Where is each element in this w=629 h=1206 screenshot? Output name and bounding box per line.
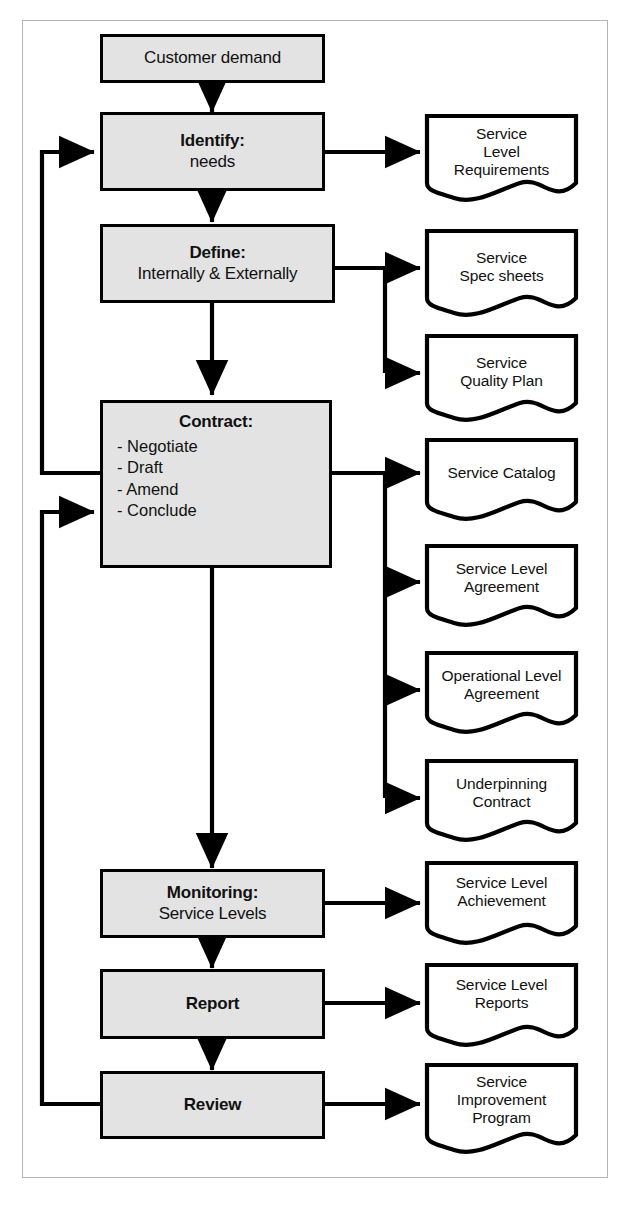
document-label: Service Improvement Program [424,1073,579,1127]
document-underpinning-contract[interactable]: Underpinning Contract [424,758,579,841]
document-label: Operational Level Agreement [424,667,579,703]
document-service-level-agreement[interactable]: Service Level Agreement [424,543,579,626]
doc-line: Quality Plan [430,372,573,390]
document-operational-level-agreement[interactable]: Operational Level Agreement [424,650,579,733]
doc-line: Program [430,1109,573,1127]
process-title-identify: Identify: [180,131,244,151]
contract-bullet-amend: - Amend [117,479,198,500]
doc-line: Service [430,125,573,143]
doc-line: Agreement [430,578,573,596]
document-label: Service Level Requirements [424,125,579,179]
doc-line: Service Level [430,874,573,892]
doc-line: Underpinning [430,775,573,793]
process-box-report[interactable]: Report [100,969,325,1039]
contract-bullet-negotiate: - Negotiate [117,436,198,457]
document-label: Service Spec sheets [424,249,579,285]
doc-line: Level [430,143,573,161]
process-subtitle-define: Internally & Externally [138,264,298,284]
process-box-customer-demand[interactable]: Customer demand [100,34,325,83]
doc-line: Requirements [430,161,573,179]
doc-line: Service [430,1073,573,1091]
document-label: Service Catalog [424,464,579,482]
document-service-quality-plan[interactable]: Service Quality Plan [424,333,579,421]
doc-line: Contract [430,793,573,811]
contract-bullet-draft: - Draft [117,457,198,478]
document-label: Service Level Achievement [424,874,579,910]
document-label: Underpinning Contract [424,775,579,811]
document-label: Service Level Agreement [424,560,579,596]
process-bullets-contract: - Negotiate - Draft - Amend - Conclude [117,436,198,522]
doc-line: Service [430,249,573,267]
process-title-report: Report [186,994,240,1014]
process-title-contract: Contract: [179,412,253,432]
document-service-level-requirements[interactable]: Service Level Requirements [424,113,579,201]
process-title-define: Define: [189,243,245,263]
process-box-review[interactable]: Review [100,1071,325,1139]
document-service-catalog[interactable]: Service Catalog [424,437,579,520]
process-box-identify[interactable]: Identify: needs [100,112,325,191]
doc-line: Service Catalog [430,464,573,482]
process-subtitle-monitoring: Service Levels [159,904,267,924]
process-box-define[interactable]: Define: Internally & Externally [100,224,335,303]
contract-bullet-conclude: - Conclude [117,500,198,521]
process-title-monitoring: Monitoring: [167,883,258,903]
document-service-spec-sheets[interactable]: Service Spec sheets [424,228,579,316]
doc-line: Agreement [430,685,573,703]
process-subtitle-identify: needs [190,152,235,172]
document-service-level-achievement[interactable]: Service Level Achievement [424,860,579,945]
document-service-improvement-program[interactable]: Service Improvement Program [424,1062,579,1154]
document-service-level-reports[interactable]: Service Level Reports [424,962,579,1047]
doc-line: Service [430,354,573,372]
doc-line: Reports [430,994,573,1012]
doc-line: Service Level [430,560,573,578]
process-title-review: Review [184,1095,241,1115]
doc-line: Achievement [430,892,573,910]
doc-line: Spec sheets [430,267,573,285]
doc-line: Improvement [430,1091,573,1109]
process-box-contract[interactable]: Contract: - Negotiate - Draft - Amend - … [100,400,332,568]
document-label: Service Quality Plan [424,354,579,390]
process-box-monitoring[interactable]: Monitoring: Service Levels [100,869,325,938]
document-label: Service Level Reports [424,976,579,1012]
doc-line: Service Level [430,976,573,994]
doc-line: Operational Level [430,667,573,685]
process-title-customer-demand: Customer demand [144,48,281,68]
diagram-canvas: Customer demand Identify: needs Define: … [0,0,629,1206]
